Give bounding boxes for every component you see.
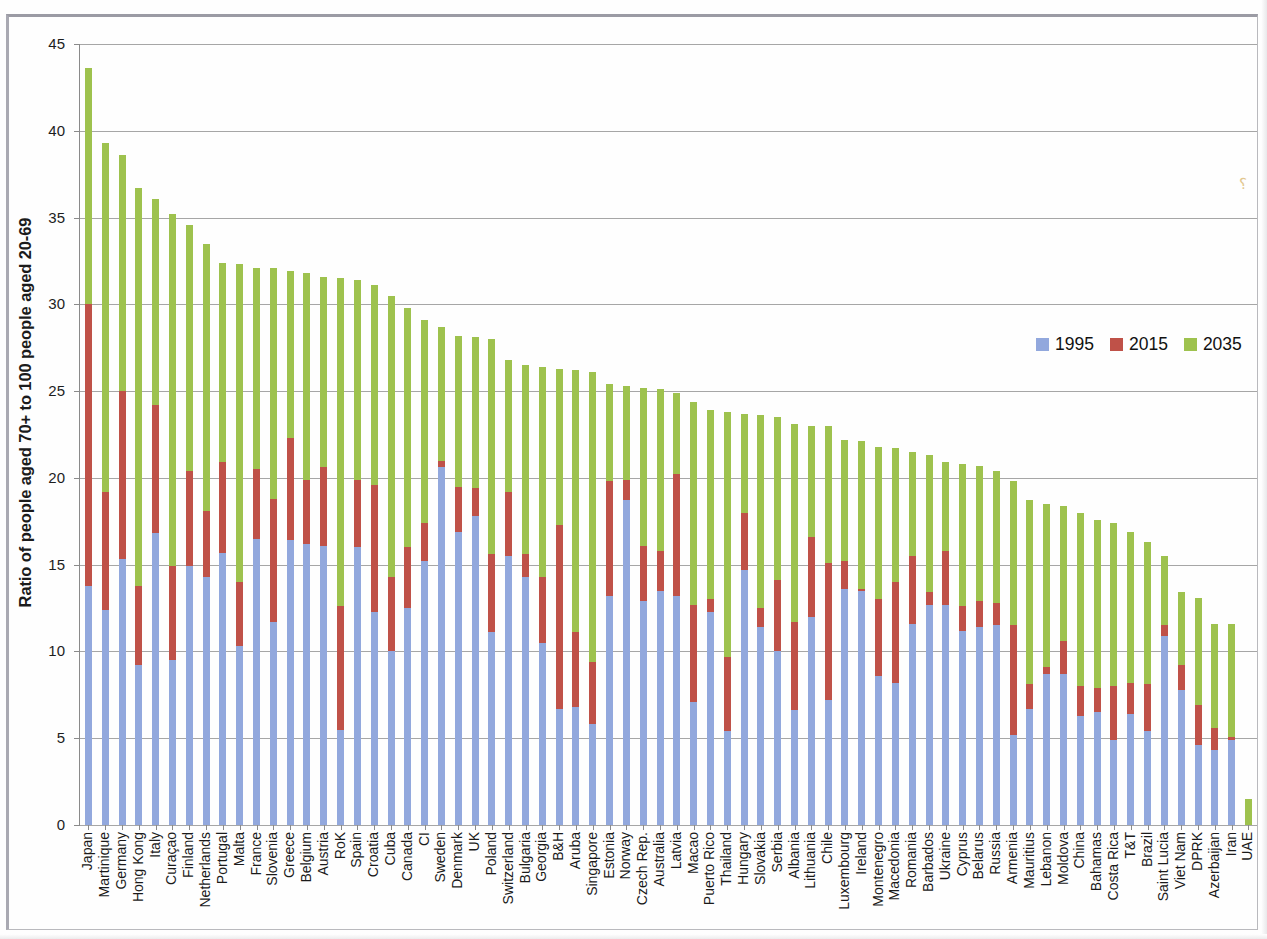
stacked-bar[interactable] [303, 273, 310, 825]
bar-column[interactable] [248, 44, 265, 825]
stacked-bar[interactable] [673, 393, 680, 825]
stacked-bar[interactable] [606, 384, 613, 825]
bar-column[interactable] [736, 44, 753, 825]
stacked-bar[interactable] [438, 327, 445, 825]
stacked-bar[interactable] [1077, 513, 1084, 825]
bar-column[interactable] [1122, 44, 1139, 825]
stacked-bar[interactable] [556, 369, 563, 825]
stacked-bar[interactable] [589, 372, 596, 825]
bar-column[interactable] [517, 44, 534, 825]
bar-column[interactable] [1139, 44, 1156, 825]
bar-column[interactable] [484, 44, 501, 825]
stacked-bar[interactable] [236, 264, 243, 825]
bar-column[interactable] [1190, 44, 1207, 825]
stacked-bar[interactable] [135, 188, 142, 825]
bar-column[interactable] [534, 44, 551, 825]
bar-column[interactable] [820, 44, 837, 825]
stacked-bar[interactable] [1127, 532, 1134, 825]
stacked-bar[interactable] [85, 68, 92, 825]
bar-column[interactable] [80, 44, 97, 825]
bar-column[interactable] [1206, 44, 1223, 825]
bar-column[interactable] [652, 44, 669, 825]
stacked-bar[interactable] [186, 225, 193, 825]
stacked-bar[interactable] [253, 268, 260, 825]
stacked-bar[interactable] [1010, 481, 1017, 825]
bar-column[interactable] [349, 44, 366, 825]
stacked-bar[interactable] [539, 367, 546, 825]
bar-column[interactable] [97, 44, 114, 825]
bar-column[interactable] [198, 44, 215, 825]
bar-column[interactable] [1156, 44, 1173, 825]
stacked-bar[interactable] [488, 339, 495, 825]
bar-column[interactable] [383, 44, 400, 825]
stacked-bar[interactable] [1161, 556, 1168, 825]
stacked-bar[interactable] [724, 412, 731, 825]
bar-column[interactable] [500, 44, 517, 825]
bar-column[interactable] [870, 44, 887, 825]
stacked-bar[interactable] [791, 424, 798, 825]
stacked-bar[interactable] [757, 415, 764, 825]
bar-column[interactable] [601, 44, 618, 825]
bar-column[interactable] [719, 44, 736, 825]
stacked-bar[interactable] [623, 386, 630, 825]
bar-column[interactable] [399, 44, 416, 825]
bar-column[interactable] [853, 44, 870, 825]
bar-column[interactable] [1089, 44, 1106, 825]
bar-column[interactable] [568, 44, 585, 825]
stacked-bar[interactable] [825, 426, 832, 825]
bar-column[interactable] [921, 44, 938, 825]
stacked-bar[interactable] [203, 244, 210, 825]
bar-column[interactable] [332, 44, 349, 825]
stacked-bar[interactable] [472, 337, 479, 825]
bar-column[interactable] [299, 44, 316, 825]
bar-column[interactable] [904, 44, 921, 825]
bar-column[interactable] [231, 44, 248, 825]
stacked-bar[interactable] [858, 441, 865, 825]
bar-column[interactable] [1173, 44, 1190, 825]
stacked-bar[interactable] [388, 296, 395, 825]
stacked-bar[interactable] [404, 308, 411, 825]
bar-column[interactable] [635, 44, 652, 825]
stacked-bar[interactable] [371, 285, 378, 825]
stacked-bar[interactable] [1245, 799, 1252, 825]
stacked-bar[interactable] [1060, 506, 1067, 825]
stacked-bar[interactable] [102, 143, 109, 825]
bar-column[interactable] [769, 44, 786, 825]
bar-column[interactable] [1072, 44, 1089, 825]
stacked-bar[interactable] [690, 402, 697, 825]
stacked-bar[interactable] [875, 447, 882, 825]
stacked-bar[interactable] [337, 278, 344, 825]
stacked-bar[interactable] [1195, 598, 1202, 825]
stacked-bar[interactable] [455, 336, 462, 825]
bar-column[interactable] [215, 44, 232, 825]
stacked-bar[interactable] [1043, 504, 1050, 825]
bar-column[interactable] [315, 44, 332, 825]
stacked-bar[interactable] [1144, 542, 1151, 825]
stacked-bar[interactable] [270, 268, 277, 825]
bar-column[interactable] [786, 44, 803, 825]
stacked-bar[interactable] [1110, 523, 1117, 825]
bar-column[interactable] [954, 44, 971, 825]
stacked-bar[interactable] [505, 360, 512, 825]
bar-column[interactable] [433, 44, 450, 825]
bar-column[interactable] [1240, 44, 1257, 825]
bar-column[interactable] [1223, 44, 1240, 825]
bar-column[interactable] [803, 44, 820, 825]
stacked-bar[interactable] [119, 155, 126, 825]
bar-column[interactable] [366, 44, 383, 825]
stacked-bar[interactable] [572, 370, 579, 825]
stacked-bar[interactable] [942, 462, 949, 825]
stacked-bar[interactable] [976, 466, 983, 825]
stacked-bar[interactable] [741, 414, 748, 825]
stacked-bar[interactable] [1211, 624, 1218, 825]
stacked-bar[interactable] [892, 448, 899, 825]
bar-column[interactable] [1055, 44, 1072, 825]
bar-column[interactable] [114, 44, 131, 825]
bar-column[interactable] [887, 44, 904, 825]
bar-column[interactable] [753, 44, 770, 825]
bar-column[interactable] [164, 44, 181, 825]
stacked-bar[interactable] [354, 280, 361, 825]
bar-column[interactable] [618, 44, 635, 825]
stacked-bar[interactable] [287, 271, 294, 825]
bar-column[interactable] [551, 44, 568, 825]
